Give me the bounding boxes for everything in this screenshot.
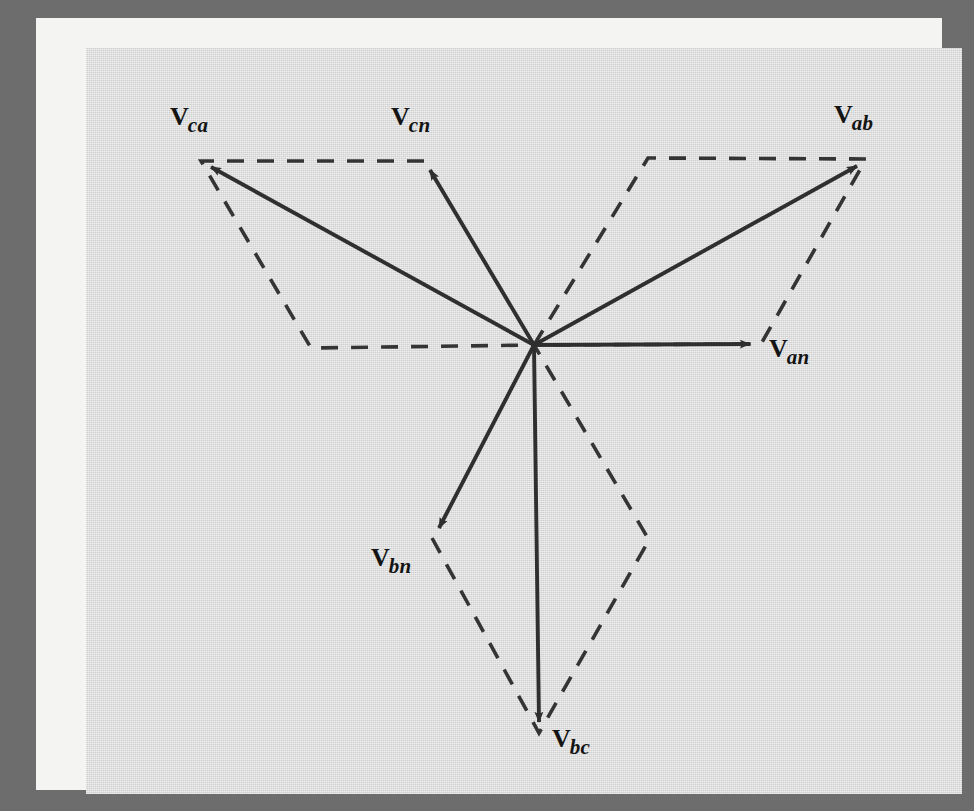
phasor-vab <box>534 166 857 345</box>
phasor-vbn <box>439 345 534 528</box>
label-vab-sub: ab <box>852 111 874 135</box>
label-vcn-sub: cn <box>409 113 431 137</box>
label-vcn-main: V <box>391 102 410 131</box>
label-vcn: Vcn <box>391 104 431 130</box>
phasor-van <box>534 344 750 345</box>
plate-white-mat: Van Vbn Vcn Vab Vbc Vca <box>36 18 942 790</box>
phasor-vcn <box>430 170 534 345</box>
label-vca: Vca <box>170 104 209 130</box>
label-vbn-main: V <box>371 543 390 572</box>
label-vca-sub: ca <box>188 113 208 137</box>
phasor-vectors <box>211 166 857 722</box>
label-vab-main: V <box>834 100 853 129</box>
label-vab: Vab <box>834 102 874 128</box>
figure-root: Van Vbn Vcn Vab Vbc Vca <box>0 0 974 811</box>
label-van: Van <box>769 336 811 362</box>
label-van-main: V <box>769 334 788 363</box>
figure-plate: Van Vbn Vcn Vab Vbc Vca <box>86 48 962 794</box>
phasor-diagram-svg <box>86 48 962 794</box>
label-vbn: Vbn <box>371 545 413 571</box>
label-vbn-sub: bn <box>389 554 412 578</box>
dashed-path-bc <box>432 345 649 733</box>
label-vbc: Vbc <box>552 726 591 752</box>
label-van-sub: an <box>787 345 810 369</box>
phasor-vbc <box>534 345 539 722</box>
label-vbc-main: V <box>552 724 571 753</box>
phasor-vca <box>211 167 534 345</box>
label-vbc-sub: bc <box>570 735 590 759</box>
label-vca-main: V <box>170 102 189 131</box>
